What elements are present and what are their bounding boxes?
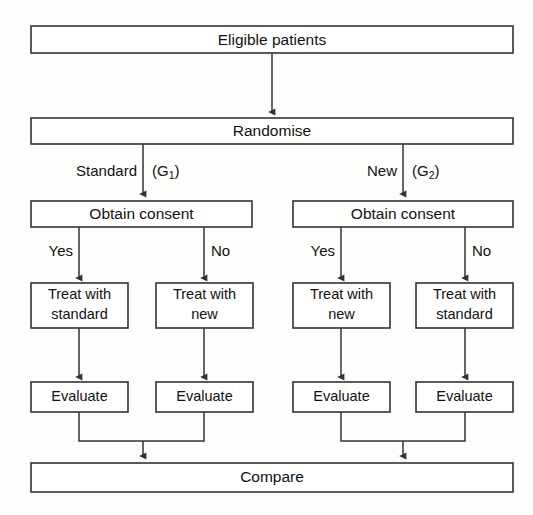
treat-box-3-line2: new [328,306,355,322]
evaluate-box-4-label: Evaluate [436,388,492,404]
treat-box-3-line1: Treat with [310,286,373,302]
consent-left-yes-label: Yes [49,242,73,259]
evaluate-box-2-label: Evaluate [176,388,232,404]
node-evaluate-1: Evaluate [31,382,128,412]
treat-box-4-line2: standard [436,306,492,322]
svg-text:(G2): (G2) [412,162,440,181]
consent-left-no-label: No [211,242,230,259]
flowchart-diagram: Eligible patients Randomise Standard (G1… [0,0,533,515]
arm-group-label-g2: (G2) [412,162,440,181]
evaluate-box-3-label: Evaluate [313,388,369,404]
node-evaluate-2: Evaluate [156,382,253,412]
node-eligible-patients: Eligible patients [31,26,513,53]
node-evaluate-4: Evaluate [416,382,513,412]
eligible-patients-label: Eligible patients [218,31,327,48]
arm-label-new: New [367,162,397,179]
arm-group-label-g1: (G1) [152,162,180,181]
treat-box-4-line1: Treat with [433,286,496,302]
randomise-label: Randomise [233,122,311,139]
flowchart-canvas: Eligible patients Randomise Standard (G1… [0,0,533,515]
merge-bar-left [79,412,204,441]
node-treat-with-new-2: Treat with new [293,283,390,328]
node-treat-with-new-1: Treat with new [156,283,253,328]
svg-text:(G1): (G1) [152,162,180,181]
merge-bar-right [341,412,465,441]
g1-close: ) [175,162,180,179]
consent-right-no-label: No [472,242,491,259]
obtain-consent-left-label: Obtain consent [89,205,194,222]
node-compare: Compare [31,463,513,492]
node-treat-with-standard-1: Treat with standard [31,283,128,328]
node-treat-with-standard-2: Treat with standard [416,283,513,328]
arm-label-standard: Standard [76,162,137,179]
node-obtain-consent-left: Obtain consent [31,201,252,227]
treat-box-2-line2: new [191,306,218,322]
treat-box-1-line2: standard [51,306,107,322]
node-evaluate-3: Evaluate [293,382,390,412]
g2-open: (G [412,162,429,179]
consent-right-yes-label: Yes [311,242,335,259]
treat-box-1-line1: Treat with [48,286,111,302]
node-obtain-consent-right: Obtain consent [293,201,513,227]
obtain-consent-right-label: Obtain consent [351,205,456,222]
treat-box-2-line1: Treat with [173,286,236,302]
g2-close: ) [435,162,440,179]
node-randomise: Randomise [31,118,513,144]
evaluate-box-1-label: Evaluate [51,388,107,404]
g1-open: (G [152,162,169,179]
compare-label: Compare [240,468,304,485]
